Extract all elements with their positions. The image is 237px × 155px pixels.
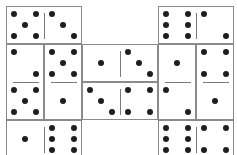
pip-dot <box>185 125 191 131</box>
domino-divider <box>120 51 121 78</box>
pip-dot <box>49 136 55 142</box>
domino-half-1 <box>158 44 196 82</box>
pip-dot <box>71 136 77 142</box>
pip-dot <box>71 125 77 131</box>
domino-divider <box>51 82 78 83</box>
pip-dot <box>223 125 229 131</box>
pip-dot <box>163 22 169 28</box>
domino-half-1 <box>44 82 82 120</box>
pip-dot <box>163 136 169 142</box>
pip-dot <box>49 147 55 153</box>
domino-half-4 <box>196 44 234 82</box>
domino-divider <box>13 82 40 83</box>
pip-dot <box>33 87 39 93</box>
pip-dot <box>49 11 55 17</box>
domino-divider <box>165 82 192 83</box>
domino-half-1 <box>6 120 44 155</box>
domino-6-2[interactable] <box>158 6 234 44</box>
pip-dot <box>163 87 169 93</box>
domino-3-4[interactable] <box>82 82 158 120</box>
pip-dot <box>60 98 66 104</box>
pip-dot <box>125 49 131 55</box>
pip-dot <box>163 11 169 17</box>
domino-1-2[interactable] <box>158 44 196 120</box>
pip-dot <box>60 22 66 28</box>
domino-divider <box>196 13 197 40</box>
pip-dot <box>147 109 153 115</box>
pip-dot <box>33 33 39 39</box>
domino-4-1[interactable] <box>196 44 234 120</box>
pip-dot <box>71 147 77 153</box>
domino-6-4[interactable] <box>158 120 234 155</box>
pip-dot <box>174 60 180 66</box>
pip-dot <box>201 49 207 55</box>
pip-dot <box>22 22 28 28</box>
pip-dot <box>185 109 191 115</box>
domino-1-3[interactable] <box>82 44 158 82</box>
domino-divider <box>203 82 230 83</box>
domino-half-5 <box>6 82 44 120</box>
pip-dot <box>11 11 17 17</box>
pip-dot <box>223 147 229 153</box>
domino-5-3[interactable] <box>6 6 82 44</box>
domino-divider <box>44 127 45 154</box>
domino-half-5 <box>6 6 44 44</box>
domino-half-6 <box>158 6 196 44</box>
pip-dot <box>163 125 169 131</box>
pip-dot <box>223 71 229 77</box>
pip-dot <box>11 33 17 39</box>
pip-dot <box>71 71 77 77</box>
pip-dot <box>11 109 17 115</box>
pip-dot <box>33 109 39 115</box>
domino-half-6 <box>158 120 196 155</box>
pip-dot <box>163 33 169 39</box>
domino-divider <box>120 89 121 116</box>
pip-dot <box>125 87 131 93</box>
domino-half-3 <box>44 6 82 44</box>
pip-dot <box>212 98 218 104</box>
pip-dot <box>223 49 229 55</box>
pip-dot <box>87 87 93 93</box>
domino-half-1 <box>196 82 234 120</box>
pip-dot <box>11 87 17 93</box>
pip-dot <box>147 71 153 77</box>
pip-dot <box>98 98 104 104</box>
pip-dot <box>223 33 229 39</box>
domino-half-4 <box>196 120 234 155</box>
pip-dot <box>33 11 39 17</box>
pip-dot <box>22 98 28 104</box>
pip-dot <box>201 125 207 131</box>
domino-divider <box>196 127 197 154</box>
pip-dot <box>185 33 191 39</box>
pip-dot <box>201 71 207 77</box>
domino-half-2 <box>6 44 44 82</box>
domino-2-5[interactable] <box>6 44 44 120</box>
pip-dot <box>49 125 55 131</box>
pip-dot <box>22 136 28 142</box>
pip-dot <box>60 60 66 66</box>
pip-dot <box>98 60 104 66</box>
domino-half-2 <box>196 6 234 44</box>
pip-dot <box>136 60 142 66</box>
pip-dot <box>185 136 191 142</box>
domino-1-6[interactable] <box>6 120 82 155</box>
domino-half-3 <box>82 82 120 120</box>
domino-half-6 <box>44 120 82 155</box>
domino-half-1 <box>82 44 120 82</box>
pip-dot <box>185 147 191 153</box>
domino-half-5 <box>44 44 82 82</box>
domino-divider <box>44 13 45 40</box>
domino-5-1[interactable] <box>44 44 82 120</box>
domino-board <box>0 0 237 155</box>
domino-half-3 <box>120 44 158 82</box>
domino-half-2 <box>158 82 196 120</box>
pip-dot <box>71 49 77 55</box>
domino-half-4 <box>120 82 158 120</box>
pip-dot <box>33 71 39 77</box>
pip-dot <box>185 22 191 28</box>
pip-dot <box>185 11 191 17</box>
pip-dot <box>163 147 169 153</box>
pip-dot <box>49 71 55 77</box>
pip-dot <box>201 11 207 17</box>
pip-dot <box>147 87 153 93</box>
